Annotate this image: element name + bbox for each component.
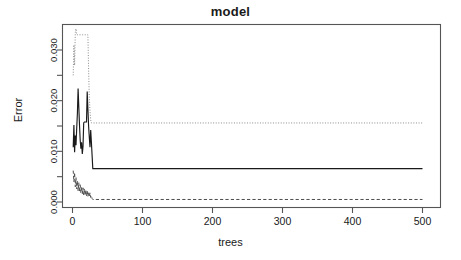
- y-axis-tick-label: 0.010: [48, 139, 59, 163]
- y-axis-tick-label: 0.020: [48, 89, 59, 113]
- series-line: [73, 89, 422, 169]
- plot-border: [63, 25, 441, 208]
- series-layer: [73, 29, 422, 200]
- x-axis-tick-label: 300: [274, 215, 292, 227]
- x-axis-tick-label: 400: [344, 215, 362, 227]
- x-axis-tick-label: 0: [70, 215, 76, 227]
- series-line: [73, 171, 422, 200]
- x-axis-tick-label: 200: [204, 215, 222, 227]
- series-line: [73, 29, 422, 123]
- y-axis-tick-label: 0.030: [48, 38, 59, 62]
- tick-label-layer: 0.0000.0100.0200.0300100200300400500: [48, 38, 431, 226]
- axis-layer: [57, 25, 441, 214]
- chart-root: model Error trees 0.0000.0100.0200.03001…: [0, 0, 461, 260]
- x-axis-tick-label: 100: [134, 215, 152, 227]
- chart-plot-area: 0.0000.0100.0200.0300100200300400500: [0, 0, 461, 260]
- x-axis-tick-label: 500: [414, 215, 432, 227]
- y-axis-tick-label: 0.000: [48, 190, 59, 214]
